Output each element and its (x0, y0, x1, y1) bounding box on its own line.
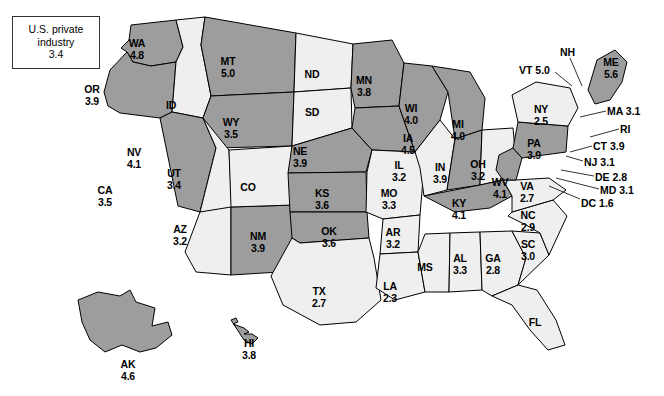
state-shape-nd (294, 33, 353, 92)
legend-value: 3.4 (17, 48, 95, 61)
callout-leader-line-ri (590, 129, 619, 137)
state-shape-ak (78, 290, 172, 352)
state-shape-ar (380, 215, 420, 254)
state-shape-ok (290, 212, 369, 243)
callout-leader-line-ma (580, 111, 606, 117)
state-shape-ny (512, 82, 578, 126)
callout-leader-line-nj (566, 156, 583, 161)
state-shape-al (449, 232, 482, 292)
state-shape-me (588, 50, 627, 104)
state-shape-hi (231, 318, 258, 344)
state-shape-mt (201, 17, 296, 96)
state-shape-mn (351, 40, 404, 108)
state-shape-ks (288, 172, 367, 212)
callout-leader-line-nh (570, 58, 582, 86)
legend-line-1: U.S. private (17, 23, 95, 36)
callout-leader-line-de (561, 170, 594, 176)
state-shape-mo (366, 150, 424, 219)
state-shape-pa (513, 122, 568, 158)
state-shape-az (185, 207, 231, 275)
state-shape-fl (492, 285, 565, 350)
state-shape-tx (271, 238, 381, 325)
callout-leader-line-ct (570, 146, 592, 152)
state-shape-la (376, 252, 425, 300)
legend-line-2: industry (17, 36, 95, 49)
callout-leader-line-vt (555, 72, 572, 86)
state-shape-co (229, 146, 294, 207)
legend-box: U.S. private industry 3.4 (12, 16, 100, 69)
us-state-choropleth-map: U.S. private industry 3.4 WA 4.8OR 3.9ID… (0, 0, 664, 396)
